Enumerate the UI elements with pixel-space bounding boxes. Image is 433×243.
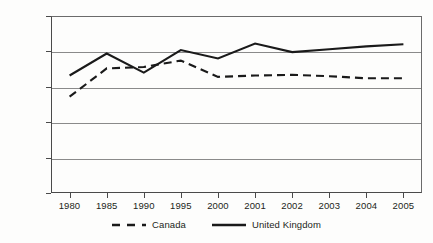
series-line-united-kingdom <box>70 44 404 76</box>
x-tick-mark <box>107 193 108 198</box>
x-tick-mark <box>403 193 404 198</box>
x-tick-mark <box>181 193 182 198</box>
x-tick-mark <box>366 193 367 198</box>
x-tick-mark <box>70 193 71 198</box>
legend-swatch-solid <box>212 221 246 229</box>
x-tick-mark <box>255 193 256 198</box>
legend-label: United Kingdom <box>252 219 321 230</box>
x-tick-mark <box>218 193 219 198</box>
series-layer <box>51 16 422 193</box>
x-tick-mark <box>329 193 330 198</box>
legend-label: Canada <box>152 219 186 230</box>
series-line-canada <box>70 61 404 97</box>
x-tick-label: 2005 <box>381 200 425 211</box>
line-chart: 0.0005.00010.00015.00020.00025.000 19801… <box>0 0 433 243</box>
y-tick-mark <box>46 193 51 194</box>
legend-swatch-dashed <box>112 221 146 229</box>
chart-legend: CanadaUnited Kingdom <box>0 219 433 230</box>
x-tick-mark <box>144 193 145 198</box>
legend-item[interactable]: Canada <box>112 219 186 230</box>
legend-item[interactable]: United Kingdom <box>212 219 321 230</box>
x-tick-mark <box>292 193 293 198</box>
